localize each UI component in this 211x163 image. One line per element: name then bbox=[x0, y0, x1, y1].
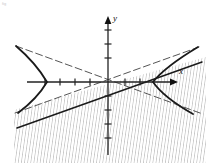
y-axis-label: y bbox=[112, 13, 117, 23]
x-axis-label: x bbox=[178, 66, 183, 76]
corner-mark: fig bbox=[2, 1, 6, 6]
hyperbola-figure: fig x bbox=[0, 0, 211, 163]
figure-container: fig x bbox=[0, 0, 211, 163]
